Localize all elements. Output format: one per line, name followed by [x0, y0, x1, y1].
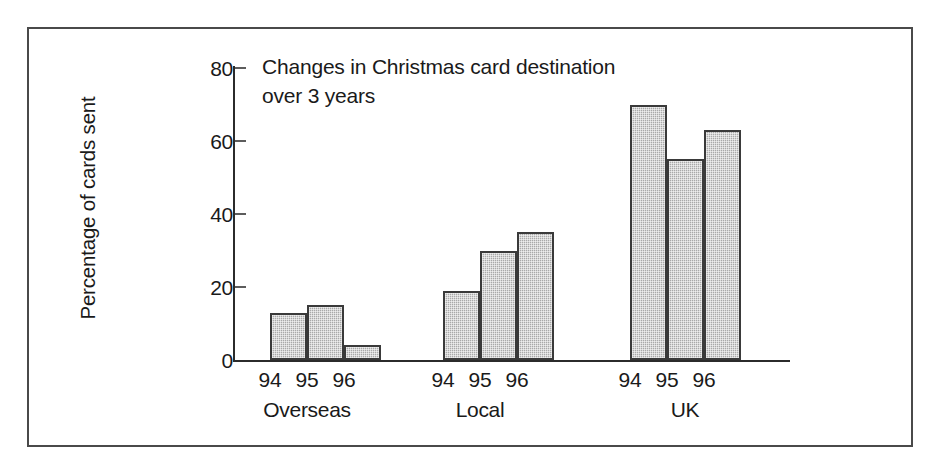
chart-title-line-2: over 3 years: [262, 81, 615, 110]
y-tick-60: 60: [185, 131, 233, 152]
y-axis-line: [233, 66, 235, 362]
y-tick-mark-20: [235, 286, 246, 288]
x-tick-overseas-96: 96: [326, 368, 362, 392]
y-tick-40: 40: [185, 204, 233, 225]
x-tick-uk-94: 94: [612, 368, 648, 392]
bar-overseas-95: [307, 305, 344, 360]
x-tick-overseas-94: 94: [252, 368, 288, 392]
x-group-label-local: Local: [418, 398, 542, 422]
bar-chart: Percentage of cards sent 80 60 40 20 0 C…: [0, 0, 935, 473]
y-tick-mark-60: [235, 140, 246, 142]
bar-overseas-94: [270, 313, 307, 360]
x-group-label-overseas: Overseas: [245, 398, 369, 422]
bar-local-96: [517, 232, 554, 360]
y-tick-mark-40: [235, 213, 246, 215]
y-axis-title: Percentage of cards sent: [76, 58, 100, 358]
y-tick-80: 80: [185, 58, 233, 79]
x-tick-local-95: 95: [462, 368, 498, 392]
x-tick-local-94: 94: [425, 368, 461, 392]
y-tick-label-40: 40: [193, 204, 233, 225]
y-tick-label-0: 0: [193, 350, 233, 371]
chart-title-line-1: Changes in Christmas card destination: [262, 52, 615, 81]
bar-overseas-96: [344, 345, 381, 360]
x-tick-local-96: 96: [499, 368, 535, 392]
bar-uk-95: [667, 159, 704, 360]
bar-uk-96: [704, 130, 741, 360]
x-tick-uk-95: 95: [649, 368, 685, 392]
bar-uk-94: [630, 105, 667, 361]
bar-local-95: [480, 251, 517, 361]
y-tick-0: 0: [185, 350, 233, 371]
bar-local-94: [443, 291, 480, 360]
x-tick-uk-96: 96: [686, 368, 722, 392]
y-tick-label-20: 20: [193, 277, 233, 298]
y-tick-label-60: 60: [193, 131, 233, 152]
x-group-label-uk: UK: [623, 398, 747, 422]
y-tick-20: 20: [185, 277, 233, 298]
x-tick-overseas-95: 95: [289, 368, 325, 392]
chart-title: Changes in Christmas card destination ov…: [262, 52, 615, 110]
y-tick-label-80: 80: [193, 58, 233, 79]
y-tick-mark-80: [235, 67, 246, 69]
x-axis-line: [233, 360, 790, 362]
